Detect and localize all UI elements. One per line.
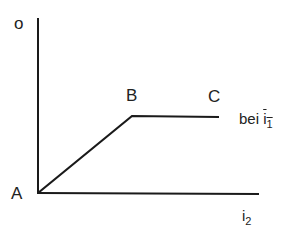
curve-label-prefix: bei	[239, 110, 263, 127]
point-b-label: B	[126, 87, 137, 104]
diagram-canvas: o A B C bei i1 i2	[0, 0, 288, 240]
point-c-label: C	[208, 88, 220, 105]
characteristic-curve	[38, 116, 219, 193]
curve-parameter-label: bei i1	[239, 111, 273, 130]
curve-label-var: i1	[263, 110, 272, 127]
x-axis-label: i2	[242, 208, 251, 227]
x-axis	[38, 193, 259, 194]
y-axis-label: o	[14, 15, 23, 32]
point-a-label: A	[11, 185, 22, 202]
